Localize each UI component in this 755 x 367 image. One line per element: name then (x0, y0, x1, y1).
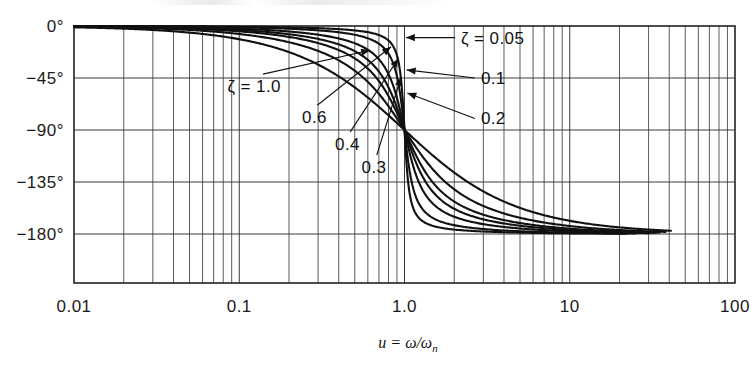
bode-phase-chart: 0.010.11.0101000°−45°−90°−135°−180°u = ω… (0, 0, 755, 367)
minor-gridlines (124, 26, 728, 283)
y-axis-tick-label: −90° (26, 121, 64, 140)
x-axis-tick-label: 1.0 (392, 297, 417, 316)
y-axis-tick-label: 0° (47, 17, 64, 36)
curve-label-zeta-0p6: 0.6 (302, 108, 327, 127)
curve-label-zeta-0p1: 0.1 (481, 69, 506, 88)
y-axis-tick-label: −180° (16, 225, 64, 244)
y-axis-tick-label: −45° (26, 69, 64, 88)
x-axis-tick-label: 100 (720, 297, 750, 316)
annotation-arrowhead (407, 93, 417, 100)
curve-label-zeta-0p3: 0.3 (362, 158, 387, 177)
annotation-arrowhead (406, 34, 415, 41)
annotation-arrowhead (407, 67, 416, 74)
phase-curve-zeta-0p6 (74, 27, 666, 232)
x-axis-tick-label: 0.01 (56, 297, 91, 316)
x-axis-tick-label: 0.1 (227, 297, 252, 316)
curve-annotations: ζ = 1.00.60.40.3ζ = 0.050.10.2 (228, 29, 525, 177)
x-axis-tick-label: 10 (560, 297, 580, 316)
annotation-leader-line (407, 70, 475, 78)
phase-curve-zeta-1 (74, 27, 671, 230)
curve-label-zeta-0p2: 0.2 (481, 109, 506, 128)
phase-plot-figure: 0.010.11.0101000°−45°−90°−135°−180°u = ω… (0, 0, 755, 367)
curve-label-zeta-1: ζ = 1.0 (228, 77, 281, 96)
annotation-leader-line (407, 93, 475, 118)
curve-label-zeta-0p4: 0.4 (335, 135, 360, 154)
x-axis-title: u = ω/ωn (378, 334, 438, 354)
y-axis-tick-label: −135° (16, 173, 64, 192)
curve-label-zeta-0p05: ζ = 0.05 (461, 29, 524, 48)
